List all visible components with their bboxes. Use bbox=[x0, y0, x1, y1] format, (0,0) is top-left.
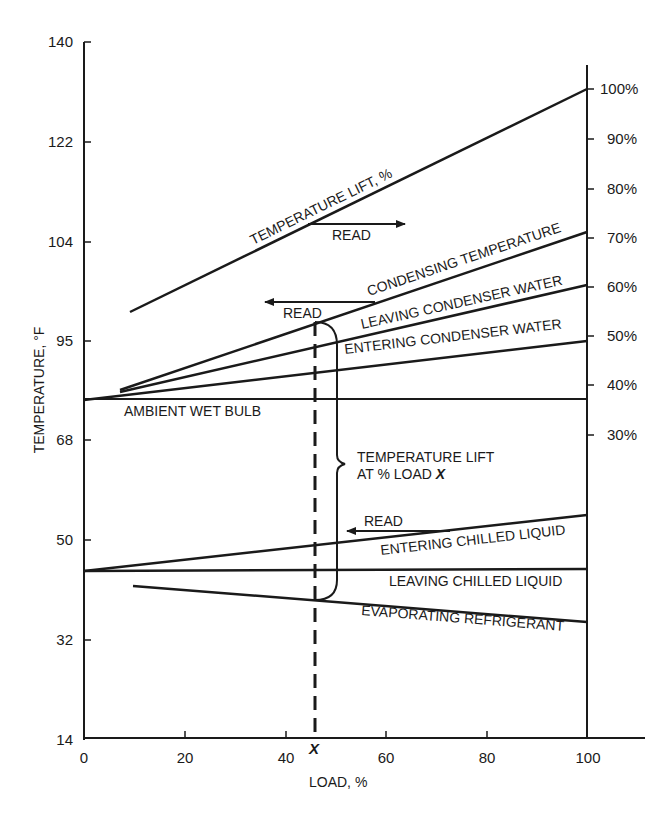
x-tick-labels: 0 20 40 60 80 100 bbox=[80, 749, 601, 766]
x-tick-label: 40 bbox=[278, 749, 295, 766]
x-tick-label: 20 bbox=[177, 749, 194, 766]
left-y-tick-labels: 140 122 104 95 68 50 32 14 bbox=[48, 33, 73, 748]
x-ticks bbox=[185, 731, 487, 738]
label-ambient-wet-bulb: AMBIENT WET BULB bbox=[124, 403, 261, 419]
y-tick-label: 140 bbox=[48, 33, 73, 50]
right-y-ticks bbox=[587, 89, 594, 435]
left-y-ticks bbox=[84, 42, 91, 640]
x-tick-label: 80 bbox=[479, 749, 496, 766]
label-leaving-chilled-liquid: LEAVING CHILLED LIQUID bbox=[389, 573, 562, 589]
x-tick-label: 60 bbox=[378, 749, 395, 766]
read-label: READ bbox=[364, 513, 403, 529]
y-tick-label: 104 bbox=[48, 233, 73, 250]
line-condensing-temperature bbox=[120, 232, 587, 390]
y2-tick-label: 100% bbox=[600, 80, 638, 97]
y2-tick-label: 90% bbox=[607, 130, 637, 147]
y2-tick-label: 80% bbox=[607, 180, 637, 197]
line-leaving-chilled-liquid bbox=[84, 569, 587, 571]
brace-icon bbox=[315, 322, 345, 600]
y2-tick-label: 60% bbox=[607, 278, 637, 295]
brace-label-line1: TEMPERATURE LIFT bbox=[357, 449, 495, 465]
y2-tick-label: 70% bbox=[607, 229, 637, 246]
line-temperature-lift bbox=[130, 89, 587, 312]
y-tick-label: 122 bbox=[48, 133, 73, 150]
label-temperature-lift: TEMPERATURE LIFT, % bbox=[247, 165, 394, 248]
y-tick-label: 32 bbox=[56, 631, 73, 648]
line-entering-condenser-water bbox=[84, 341, 587, 400]
temperature-load-chart: 140 122 104 95 68 50 32 14 TEMPERATURE, … bbox=[0, 0, 672, 818]
read-label: READ bbox=[283, 305, 322, 321]
y-tick-label: 95 bbox=[56, 332, 73, 349]
brace-label-line2: AT % LOAD X bbox=[357, 466, 447, 482]
y-tick-label: 68 bbox=[56, 431, 73, 448]
right-y-tick-labels: 100% 90% 80% 70% 60% 50% 40% 30% bbox=[600, 80, 638, 443]
line-leaving-condenser-water bbox=[120, 285, 587, 392]
read-label: READ bbox=[332, 227, 371, 243]
x-tick-label: 0 bbox=[80, 749, 88, 766]
label-evaporating-refrigerant: EVAPORATING REFRIGERANT bbox=[361, 602, 565, 634]
x-axis-title: LOAD, % bbox=[309, 774, 367, 790]
y2-tick-label: 50% bbox=[607, 327, 637, 344]
x-marker-label: X bbox=[308, 740, 320, 757]
y-tick-label: 14 bbox=[56, 731, 73, 748]
y2-tick-label: 40% bbox=[607, 376, 637, 393]
y-axis-title: TEMPERATURE, °F bbox=[31, 327, 47, 454]
x-tick-label: 100 bbox=[575, 749, 600, 766]
y2-tick-label: 30% bbox=[607, 426, 637, 443]
y-tick-label: 50 bbox=[56, 531, 73, 548]
